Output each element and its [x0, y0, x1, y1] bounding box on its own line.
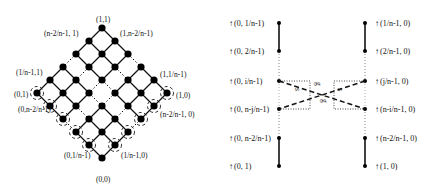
- arrow-up-icon: ↑: [229, 77, 233, 86]
- arrow-up-icon: ↑: [229, 47, 233, 56]
- arrow-up-icon: ↑: [375, 105, 379, 114]
- chain-crossover-diagram: sggs↑(0, 1/n-1)↑(0, 2/n-1)↑(0, i/n-1)↑(0…: [229, 19, 417, 171]
- chain-label: (1, 0): [380, 162, 398, 171]
- lattice-node: [72, 76, 79, 83]
- node-label: (0,1): [14, 90, 29, 99]
- lattice-node: [85, 63, 92, 70]
- lattice-node: [111, 63, 118, 70]
- arrow-up-icon: ↑: [229, 19, 233, 28]
- arrow-up-icon: ↑: [375, 77, 379, 86]
- lattice-node: [85, 37, 92, 44]
- chain-node: [363, 164, 367, 168]
- dotted-box-right: [334, 81, 365, 109]
- lattice-node: [98, 24, 105, 31]
- arrow-up-icon: ↑: [375, 47, 379, 56]
- lattice-node: [46, 76, 53, 83]
- chain-label: (n-2/n-1, 0): [380, 134, 417, 143]
- lattice-node: [124, 102, 131, 109]
- arrow-up-icon: ↑: [229, 162, 233, 171]
- chain-label: (0, 1/n-1): [234, 19, 265, 28]
- node-label: (0,0): [96, 175, 111, 184]
- lattice-node: [72, 102, 79, 109]
- lattice-node: [85, 141, 92, 148]
- node-label: (n-2/n-1, 1): [44, 29, 79, 38]
- lattice-node: [72, 128, 79, 135]
- chain-node: [363, 21, 367, 25]
- chain-node: [277, 49, 281, 53]
- chain-node: [277, 21, 281, 25]
- lattice-node: [163, 89, 170, 96]
- lattice-node: [59, 115, 66, 122]
- chain-label: (n-i/n-1, 0): [380, 105, 415, 114]
- chain-label: (0, 1): [234, 162, 252, 171]
- lattice-node: [137, 89, 144, 96]
- diagram-canvas: (1,1)(n-2/n-1, 1)(1,n-2/n-1)(1/n-1,1)(1,…: [0, 0, 441, 196]
- node-label: (n-2/n-1, 0): [160, 110, 195, 119]
- lattice-node: [33, 89, 40, 96]
- node-label: (1,1/n-1): [160, 70, 187, 79]
- node-label: (1/n-1,1): [16, 68, 43, 77]
- lattice-node: [98, 76, 105, 83]
- chain-node: [277, 164, 281, 168]
- chain-label: (0, n-2/n-1): [234, 134, 271, 143]
- chain-node: [363, 136, 367, 140]
- arrow-up-icon: ↑: [375, 19, 379, 28]
- crossover-label: g: [314, 82, 323, 86]
- lattice-node: [98, 128, 105, 135]
- chain-label: (2/n-1, 0): [380, 47, 411, 56]
- lattice-node: [150, 102, 157, 109]
- lattice-node: [111, 89, 118, 96]
- arrow-up-icon: ↑: [229, 134, 233, 143]
- node-label: (1,n-2/n-1): [120, 29, 153, 38]
- lattice-node: [85, 115, 92, 122]
- lattice-node: [137, 115, 144, 122]
- chain-label: (0, i/n-1): [234, 77, 263, 86]
- node-label: (0,n-2/n-1): [18, 105, 51, 114]
- crossover-label: g: [320, 99, 329, 103]
- lattice-node: [98, 102, 105, 109]
- lattice-node: [72, 50, 79, 57]
- lattice-node: [150, 76, 157, 83]
- node-label: (0,1/n-1): [64, 151, 91, 160]
- lattice-node: [124, 128, 131, 135]
- lattice-node: [124, 76, 131, 83]
- crossover-label: s: [293, 88, 302, 91]
- lattice-node: [111, 115, 118, 122]
- chain-label: (0, 2/n-1): [234, 47, 265, 56]
- node-label: (1,1): [96, 15, 111, 24]
- lattice-diagram: (1,1)(n-2/n-1, 1)(1,n-2/n-1)(1/n-1,1)(1,…: [14, 15, 195, 184]
- lattice-node: [111, 37, 118, 44]
- arrow-up-icon: ↑: [375, 162, 379, 171]
- chain-label: (1/n-1, 0): [380, 19, 411, 28]
- lattice-node: [59, 89, 66, 96]
- lattice-node: [98, 154, 105, 161]
- dotted-box-left: [279, 81, 310, 109]
- node-label: (1/n-1,0): [121, 151, 148, 160]
- lattice-node: [111, 141, 118, 148]
- chain-node: [363, 49, 367, 53]
- lattice-node: [124, 50, 131, 57]
- crossover-label: s: [336, 88, 345, 91]
- chain-label: (j/n-1, 0): [380, 77, 409, 86]
- lattice-node: [98, 50, 105, 57]
- arrow-up-icon: ↑: [229, 105, 233, 114]
- lattice-node: [137, 63, 144, 70]
- node-label: (1,0): [176, 91, 191, 100]
- chain-node: [277, 136, 281, 140]
- lattice-node: [59, 63, 66, 70]
- arrow-up-icon: ↑: [375, 134, 379, 143]
- chain-label: (0, n-j/n-1): [234, 105, 269, 114]
- lattice-node: [85, 89, 92, 96]
